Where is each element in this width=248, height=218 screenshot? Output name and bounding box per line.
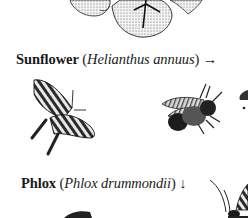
phlox-flower-illustration [60, 0, 210, 42]
common-name: Phlox [21, 175, 56, 191]
butterfly-partial-illustration [208, 176, 248, 218]
arrow-down-icon: ↓ [176, 175, 187, 191]
phlox-caption: Phlox (Phlox drummondii) ↓ [21, 175, 186, 192]
partial-insect-illustration [236, 86, 248, 116]
open-paren: ( [56, 175, 64, 191]
sunflower-caption: Sunflower (Helianthus annuus) → [16, 51, 217, 68]
common-name: Sunflower [16, 51, 79, 67]
partial-bottom-insect-illustration [62, 210, 102, 218]
arrow-right-icon: → [199, 51, 217, 67]
scientific-name: Helianthus annuus [87, 51, 194, 67]
bee-illustration [160, 82, 232, 137]
scientific-name: Phlox drummondii [64, 175, 171, 191]
swallowtail-butterfly-illustration [20, 78, 100, 160]
open-paren: ( [79, 51, 87, 67]
